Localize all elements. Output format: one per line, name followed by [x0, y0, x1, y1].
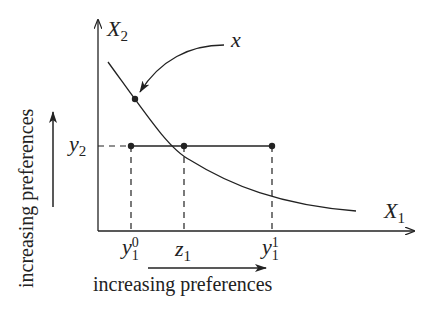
horizontal-preference-caption: increasing preferences [93, 273, 272, 296]
y1-0-tick-label: y01 [122, 234, 139, 262]
y-axis-label: X2 [107, 16, 128, 42]
point-y1-0 [128, 143, 134, 149]
point-z1 [181, 143, 187, 149]
diagram-canvas [0, 0, 437, 313]
point-y1-1 [269, 143, 275, 149]
point-x [132, 96, 138, 102]
z1-tick-label: z1 [175, 236, 191, 262]
pointer-arrow [140, 45, 224, 92]
y1-1-tick-label: y11 [262, 234, 279, 262]
point-x-label: x [231, 27, 241, 53]
y2-tick-label: y2 [69, 131, 86, 157]
vertical-preference-caption: increasing preferences [15, 109, 38, 288]
x-axis-label: X1 [384, 198, 405, 224]
